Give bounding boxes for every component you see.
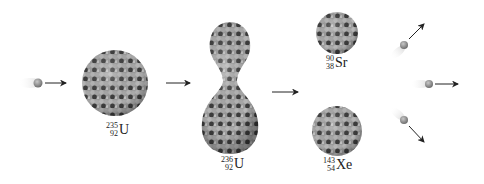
label-uranium-235: 235 92 U (106, 122, 129, 138)
label-strontium-90: 90 38 Sr (326, 55, 347, 71)
label-uranium-236: 236 92 U (221, 156, 244, 172)
fission-diagram: 235 92 U 236 92 U 90 38 Sr 143 54 Xe (0, 0, 484, 184)
arrow-icon (409, 126, 424, 142)
released-neutron-right (410, 80, 458, 88)
element-symbol: U (119, 122, 129, 138)
xenon-143-nucleus (312, 106, 362, 156)
atomic-number: 92 (225, 164, 233, 172)
neutron-icon (425, 80, 433, 88)
atomic-number: 92 (110, 130, 118, 138)
incoming-neutron (18, 78, 43, 88)
strontium-90-nucleus (316, 12, 358, 54)
released-neutron-down (389, 105, 424, 142)
label-xenon-143: 143 54 Xe (323, 157, 352, 173)
element-symbol: Sr (335, 55, 347, 71)
element-symbol: U (234, 156, 244, 172)
neutron-icon (400, 116, 408, 124)
atomic-number: 38 (326, 63, 334, 71)
released-neutron-up (389, 24, 424, 61)
neutron-icon (400, 41, 408, 49)
atomic-number: 54 (327, 165, 335, 173)
element-symbol: Xe (336, 157, 352, 173)
uranium-235-nucleus (82, 50, 148, 116)
arrow-icon (409, 24, 424, 39)
uranium-236-nucleus (202, 22, 258, 154)
neutron-icon (34, 79, 43, 88)
